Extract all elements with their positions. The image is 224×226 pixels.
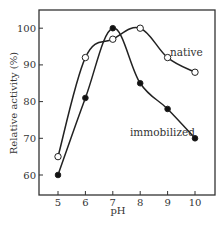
filled-circle-marker [110,25,116,31]
y-tick-label: 100 [17,23,36,34]
open-circle-marker [82,54,88,60]
y-tick-label: 60 [23,170,36,181]
annotation-immobilized: immobilized [130,126,195,138]
x-axis-label: pH [110,205,125,216]
open-circle-marker [55,153,61,159]
open-circle-marker [137,25,143,31]
filled-circle-marker [55,172,61,178]
open-circle-marker [110,36,116,42]
filled-circle-marker [137,80,143,86]
x-tick-label: 10 [189,197,202,208]
filled-circle-marker [165,106,171,112]
x-axis-ticks: 5678910 [55,191,202,208]
x-tick-label: 5 [55,197,61,208]
ph-activity-chart: 60708090100 5678910 Relative activity (%… [0,0,224,226]
plot-frame [39,10,215,195]
x-tick-label: 6 [82,197,88,208]
x-tick-label: 9 [164,197,170,208]
y-tick-label: 70 [23,133,36,144]
filled-circle-marker [83,95,89,101]
y-tick-label: 90 [23,59,36,70]
annotation-native: native [170,46,203,58]
x-tick-label: 8 [137,197,143,208]
y-axis-label: Relative activity (%) [8,52,19,154]
y-tick-label: 80 [23,96,36,107]
open-circle-marker [192,69,198,75]
